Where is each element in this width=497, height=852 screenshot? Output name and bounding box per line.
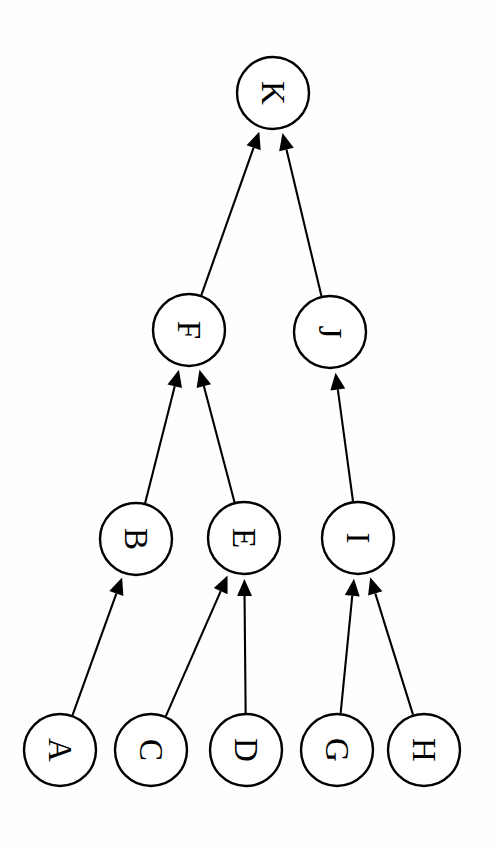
- edge-f-to-k: [201, 132, 260, 295]
- edge-h-to-i: [368, 577, 413, 715]
- node-label: F: [171, 321, 207, 339]
- edge-c-to-e: [166, 576, 228, 717]
- node-e[interactable]: E: [208, 502, 280, 574]
- node-label: A: [42, 738, 78, 762]
- edge-g-to-i: [341, 579, 360, 713]
- node-label: E: [226, 528, 262, 548]
- node-label: D: [228, 738, 264, 762]
- node-a[interactable]: A: [24, 714, 96, 786]
- node-c[interactable]: C: [115, 714, 187, 786]
- node-label: G: [319, 738, 355, 762]
- node-i[interactable]: I: [322, 502, 394, 574]
- node-h[interactable]: H: [388, 714, 460, 786]
- arrowhead-icon: [197, 370, 212, 388]
- node-label: K: [255, 81, 291, 105]
- node-label: J: [312, 326, 348, 339]
- diagram-canvas: ACDGHBEIFJK: [0, 0, 497, 852]
- edge-a-to-b: [73, 578, 124, 716]
- nodes-layer: ACDGHBEIFJK: [24, 57, 460, 786]
- arrowhead-icon: [247, 132, 261, 151]
- node-label: B: [118, 528, 154, 550]
- arrowhead-icon: [279, 133, 294, 151]
- arrowhead-icon: [330, 373, 345, 391]
- node-k[interactable]: K: [237, 57, 309, 129]
- graph-svg: ACDGHBEIFJK: [0, 0, 497, 852]
- node-label: C: [133, 739, 169, 761]
- edge-j-to-k: [279, 133, 321, 296]
- edge-i-to-j: [330, 373, 353, 502]
- node-j[interactable]: J: [294, 296, 366, 368]
- edges-layer: [73, 132, 413, 716]
- node-label: H: [406, 738, 442, 762]
- edge-d-to-e: [237, 579, 252, 713]
- arrowhead-icon: [237, 579, 252, 596]
- arrowhead-icon: [368, 577, 382, 595]
- node-b[interactable]: B: [100, 503, 172, 575]
- node-g[interactable]: G: [301, 714, 373, 786]
- edge-e-to-f: [197, 370, 235, 503]
- node-f[interactable]: F: [153, 294, 225, 366]
- arrowhead-icon: [345, 579, 360, 597]
- arrowhead-icon: [109, 578, 123, 597]
- node-d[interactable]: D: [210, 714, 282, 786]
- node-label: I: [340, 533, 376, 544]
- edge-b-to-f: [145, 370, 182, 503]
- arrowhead-icon: [167, 370, 182, 388]
